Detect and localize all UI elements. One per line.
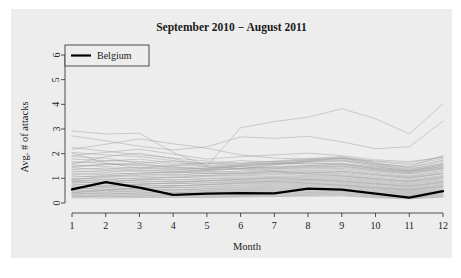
y-tick-label: 5 <box>51 77 62 82</box>
chart-legend: Belgium <box>65 45 149 66</box>
y-tick-label: 0 <box>51 201 62 206</box>
x-tick-label: 4 <box>171 220 176 231</box>
legend-label-belgium: Belgium <box>97 50 132 61</box>
y-axis-label: Avg. # of attacks <box>19 102 30 173</box>
line-chart: September 2010 − August 2011 Avg. # of a… <box>11 9 452 258</box>
background-series-line <box>72 159 443 168</box>
chart-figure: September 2010 − August 2011 Avg. # of a… <box>11 9 452 258</box>
x-tick-label: 8 <box>306 220 311 231</box>
y-tick-label: 3 <box>51 127 62 132</box>
x-tick-label: 6 <box>238 220 243 231</box>
y-tick-label: 4 <box>51 102 62 107</box>
x-tick-label: 9 <box>339 220 344 231</box>
x-tick-label: 1 <box>70 220 75 231</box>
x-tick-label: 7 <box>272 220 277 231</box>
chart-title: September 2010 − August 2011 <box>156 21 307 34</box>
x-tick-label: 5 <box>204 220 209 231</box>
y-tick-label: 6 <box>51 53 62 58</box>
x-tick-label: 12 <box>438 220 448 231</box>
x-axis-label: Month <box>233 241 262 252</box>
x-tick-label: 10 <box>371 220 381 231</box>
y-tick-label: 2 <box>51 151 62 156</box>
x-tick-label: 2 <box>103 220 108 231</box>
y-axis: 0123456 <box>51 53 66 206</box>
y-tick-label: 1 <box>51 176 62 181</box>
x-tick-label: 3 <box>137 220 142 231</box>
x-tick-label: 11 <box>404 220 414 231</box>
x-axis: 123456789101112 <box>70 213 449 231</box>
background-series-line <box>72 139 443 163</box>
background-series-line <box>72 121 443 150</box>
